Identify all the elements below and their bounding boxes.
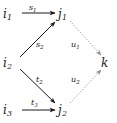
node-k: k [101,57,108,71]
edge-label-s1-subscript: 1 [33,7,37,13]
node-k-base: k [101,56,108,70]
node-i3: i3 [3,104,12,118]
commutative-diagram: i1 j1 i2 k i3 j2 s1 s2 t2 t3 u1 u2 [0,0,117,123]
node-i2: i2 [3,57,12,71]
edge-label-s1: s1 [29,4,37,13]
edge-label-u1-subscript: 1 [76,44,80,50]
edge-label-u2: u2 [71,76,80,85]
node-i1: i1 [3,8,12,22]
node-i3-subscript: 3 [7,109,12,118]
node-i2-subscript: 2 [7,62,12,71]
edge-label-s2-subscript: 2 [40,44,44,50]
edge-label-t2: t2 [36,76,43,85]
edge-label-s2: s2 [36,41,44,50]
node-j1: j1 [58,8,67,22]
node-j2-subscript: 2 [62,109,67,118]
edge-label-t2-subscript: 2 [39,79,43,85]
edge-label-t3: t3 [31,99,38,108]
node-i1-subscript: 1 [7,13,12,22]
edge-label-u2-subscript: 2 [76,79,80,85]
node-j2: j2 [58,104,67,118]
edge-label-t3-subscript: 3 [34,102,38,108]
node-j1-subscript: 1 [62,13,67,22]
edge-label-u1: u1 [71,41,80,50]
